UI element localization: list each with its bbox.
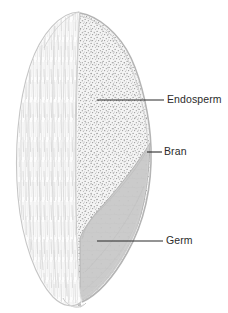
- label-endosperm: Endosperm: [167, 94, 222, 105]
- kernel-illustration: [0, 0, 228, 313]
- wheat-kernel-diagram: Endosperm Bran Germ: [0, 0, 228, 313]
- label-bran: Bran: [164, 146, 187, 157]
- label-germ: Germ: [166, 235, 193, 246]
